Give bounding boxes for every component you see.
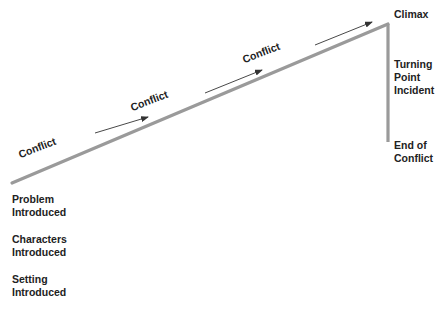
rising-action-line [12, 24, 388, 183]
problem-label-line-1: Problem [12, 193, 66, 206]
turning-point-label: Turning Point Incident [394, 58, 434, 97]
characters-label-line-1: Characters [12, 233, 67, 246]
characters-introduced-label: Characters Introduced [12, 233, 67, 259]
turning-point-line-1: Turning [394, 58, 434, 71]
turning-point-line-3: Incident [394, 84, 434, 97]
setting-introduced-label: Setting Introduced [12, 273, 66, 299]
turning-point-line-2: Point [394, 71, 434, 84]
setting-label-line-2: Introduced [12, 286, 66, 299]
end-label-line-2: Conflict [394, 152, 433, 165]
problem-introduced-label: Problem Introduced [12, 193, 66, 219]
characters-label-line-2: Introduced [12, 246, 67, 259]
climax-label: Climax [394, 8, 428, 21]
conflict-arrow-1 [95, 117, 148, 133]
plot-diagram [0, 0, 444, 312]
setting-label-line-1: Setting [12, 273, 66, 286]
end-label-line-1: End of [394, 139, 433, 152]
climax-label-line-1: Climax [394, 8, 428, 21]
problem-label-line-2: Introduced [12, 206, 66, 219]
end-of-conflict-label: End of Conflict [394, 139, 433, 165]
